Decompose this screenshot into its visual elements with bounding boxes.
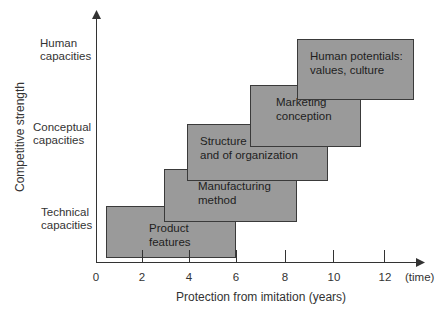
x-axis-end-label: (time) bbox=[405, 271, 434, 283]
y-axis-line bbox=[96, 16, 97, 263]
level-label-human: Human capacities bbox=[40, 37, 91, 63]
box-text: method bbox=[198, 193, 271, 207]
box-text: values, culture bbox=[310, 63, 403, 77]
level-label-conceptual: Conceptual capacities bbox=[33, 121, 91, 147]
box-text: and of organization bbox=[200, 148, 311, 162]
level-label-line: Technical bbox=[41, 206, 92, 219]
x-tick-label: 12 bbox=[375, 271, 395, 283]
x-tick-label: 10 bbox=[324, 271, 344, 283]
x-tick-label: 2 bbox=[132, 271, 152, 283]
box-text: Product bbox=[149, 221, 191, 235]
y-axis-title: Competitive strength bbox=[13, 67, 27, 207]
x-tick-label: 4 bbox=[179, 271, 199, 283]
x-tick bbox=[236, 250, 237, 262]
level-label-line: capacities bbox=[33, 134, 91, 147]
y-axis-arrow-icon bbox=[92, 10, 101, 19]
x-tick bbox=[142, 250, 143, 262]
level-label-line: capacities bbox=[40, 50, 91, 63]
x-tick bbox=[384, 250, 385, 262]
x-axis-title: Protection from imitation (years) bbox=[176, 290, 346, 304]
box-text: Manufacturing bbox=[198, 179, 271, 193]
x-tick bbox=[285, 250, 286, 262]
x-tick-label: 8 bbox=[275, 271, 295, 283]
level-label-line: Conceptual bbox=[33, 121, 91, 134]
x-tick bbox=[333, 250, 334, 262]
box-text: features bbox=[149, 235, 191, 249]
x-tick-label: 0 bbox=[86, 271, 106, 283]
box-human-potentials: Human potentials: values, culture bbox=[297, 39, 414, 100]
level-label-technical: Technical capacities bbox=[41, 206, 92, 232]
level-label-line: Human bbox=[40, 37, 91, 50]
x-tick-label: 6 bbox=[226, 271, 246, 283]
x-axis-line bbox=[96, 262, 418, 263]
box-text: Human potentials: bbox=[310, 49, 403, 63]
level-label-line: capacities bbox=[41, 219, 92, 232]
box-text: conception bbox=[276, 109, 332, 123]
x-tick bbox=[189, 250, 190, 262]
x-axis-arrow-icon bbox=[416, 258, 425, 267]
